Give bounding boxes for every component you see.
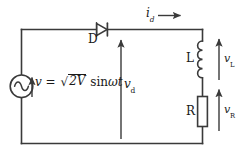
voltage-label-vd: vd	[124, 78, 136, 93]
diode-symbol	[97, 23, 108, 36]
vR-subscript: R	[230, 112, 235, 120]
omega-symbol: ω	[108, 75, 118, 89]
vL-subscript: L	[230, 61, 235, 69]
resistor-symbol	[198, 97, 208, 127]
source-voltage-variable: v	[35, 75, 42, 89]
radicand: 2V	[69, 74, 85, 88]
equals-sign: =	[46, 75, 56, 89]
ac-source-symbol	[10, 75, 33, 98]
vd-subscript: d	[131, 86, 136, 95]
time-variable: t	[118, 75, 123, 89]
vd-symbol: v	[124, 77, 131, 91]
resistor-label: R	[186, 105, 195, 117]
source-voltage-label: v = √2V sinωt	[35, 75, 123, 88]
diode-label: D	[88, 33, 98, 45]
inductor-label: L	[186, 52, 194, 64]
current-label-id: id	[146, 7, 155, 22]
trig-function: sin	[90, 75, 108, 89]
voltage-label-vR: vR	[224, 104, 235, 118]
current-subscript: d	[150, 15, 155, 24]
voltage-label-vL: vL	[224, 53, 235, 67]
sqrt-radical: √2V	[60, 75, 87, 88]
inductor-symbol	[198, 41, 203, 78]
circuit-diagram: D id v = √2V sinωt vd L R vL vR	[0, 0, 244, 158]
